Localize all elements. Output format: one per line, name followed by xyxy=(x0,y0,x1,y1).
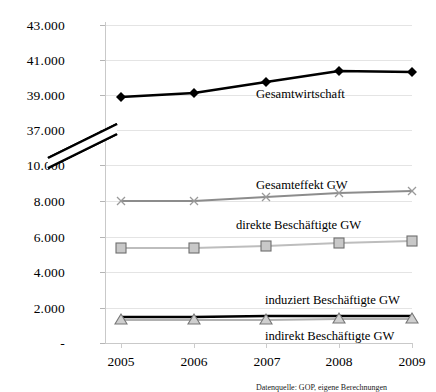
series-markers-direkte-beschaeftigte-gw xyxy=(116,236,417,253)
gridlines xyxy=(105,26,412,309)
series-label-gesamtwirtschaft: Gesamtwirtschaft xyxy=(256,88,345,101)
source-note: Datenquelle: GOP, eigene Berechnungen xyxy=(256,383,387,392)
series-label-direkte-beschaeftigte-gw: direkte Beschäftigte GW xyxy=(236,219,361,232)
series-label-gesamteffekt-gw: Gesamteffekt GW xyxy=(256,179,348,192)
series-label-induziert-beschaeftigte-gw: induziert Beschäftigte GW xyxy=(265,294,400,307)
axis-break-mask xyxy=(48,124,117,168)
series-label-indirekt-beschaeftigte-gw: indirekt Beschäftigte GW xyxy=(265,330,394,343)
series-direkte-beschaeftigte-gw xyxy=(116,236,417,253)
y-axis-ticks xyxy=(100,26,105,344)
series-indirekt-beschaeftigte-gw xyxy=(115,313,418,324)
